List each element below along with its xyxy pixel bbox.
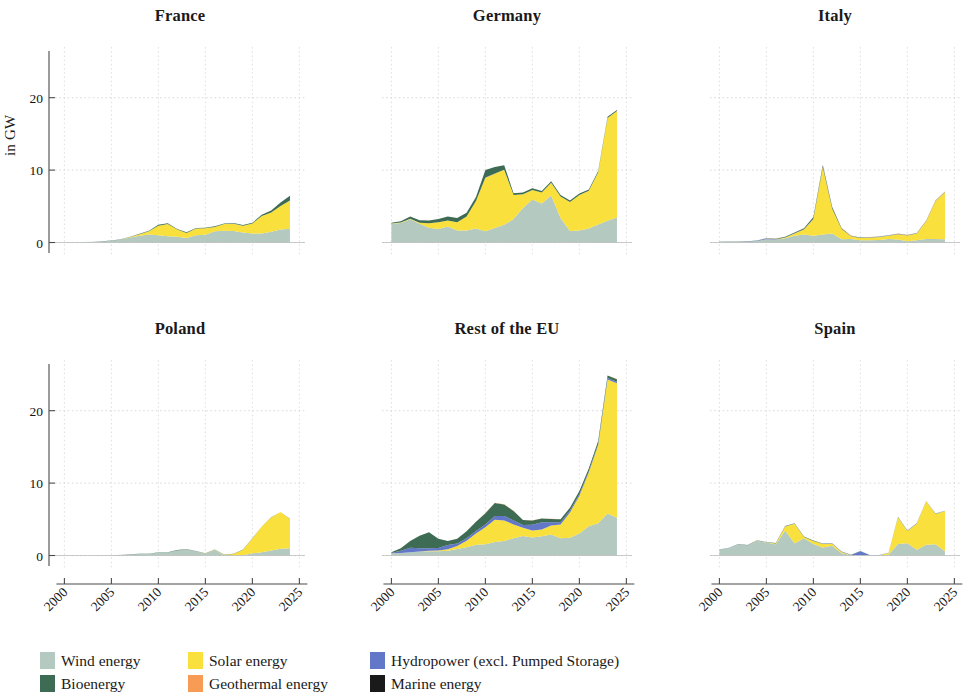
panel-rest-of-the-eu: Rest of the EU200020052010201520202025	[332, 313, 637, 623]
panel-plot: 200020052010201520202025	[332, 313, 640, 642]
stacked-areas	[64, 512, 290, 556]
y-tick-label: 10	[30, 163, 44, 178]
x-tick-label: 2000	[368, 584, 398, 614]
x-tick-label: 2010	[135, 584, 165, 614]
legend-item-marine-energy[interactable]: Marine energy	[370, 673, 482, 694]
x-tick-label: 2005	[88, 584, 118, 614]
panel-plot: 01020200020052010201520202025	[5, 313, 313, 642]
x-tick-label: 2020	[556, 584, 586, 614]
x-tick-label: 2015	[182, 584, 212, 614]
legend-item-solar-energy[interactable]: Solar energy	[188, 650, 287, 671]
stacked-areas	[391, 110, 617, 243]
panel-plot: 200020052010201520202025	[660, 313, 967, 642]
legend-swatch	[370, 675, 385, 692]
x-tick-label: 2005	[415, 584, 445, 614]
y-tick-label: 0	[36, 236, 43, 251]
area-solar-energy	[391, 111, 617, 231]
x-tick-label: 2010	[462, 584, 492, 614]
panel-grid: France01020GermanyItalyPoland01020200020…	[0, 0, 961, 632]
panel-plot: 01020	[5, 0, 313, 329]
legend-swatch	[188, 652, 203, 669]
x-tick-label: 2025	[931, 584, 961, 614]
legend-label: Marine energy	[391, 675, 482, 693]
area-solar-energy	[391, 380, 617, 554]
area-solar-energy	[719, 167, 945, 242]
panel-germany: Germany	[332, 0, 637, 310]
legend-swatch	[188, 675, 203, 692]
x-tick-label: 2020	[884, 584, 914, 614]
legend-label: Bioenergy	[61, 675, 125, 693]
panel-italy: Italy	[660, 0, 965, 310]
legend-item-bioenergy[interactable]: Bioenergy	[40, 673, 125, 694]
legend-label: Hydropower (excl. Pumped Storage)	[391, 652, 619, 670]
stacked-areas	[719, 165, 945, 243]
legend-label: Geothermal energy	[209, 675, 328, 693]
stacked-areas	[64, 196, 290, 243]
x-tick-label: 2020	[229, 584, 259, 614]
panel-poland: Poland01020200020052010201520202025	[5, 313, 310, 623]
y-tick-label: 0	[36, 549, 43, 564]
x-tick-label: 2010	[790, 584, 820, 614]
chart-legend: Wind energySolar energyHydropower (excl.…	[40, 650, 700, 696]
y-tick-label: 20	[30, 91, 44, 106]
area-solar-energy	[64, 512, 290, 555]
panel-spain: Spain200020052010201520202025	[660, 313, 965, 623]
legend-label: Wind energy	[61, 652, 141, 670]
legend-swatch	[370, 652, 385, 669]
legend-item-hydropower-excl-pumped-storage[interactable]: Hydropower (excl. Pumped Storage)	[370, 650, 619, 671]
x-tick-label: 2025	[276, 584, 306, 614]
legend-row-top: Wind energySolar energyHydropower (excl.…	[40, 650, 700, 671]
x-tick-label: 2000	[696, 584, 726, 614]
panel-france: France01020	[5, 0, 310, 310]
panel-plot	[332, 0, 640, 329]
legend-item-geothermal-energy[interactable]: Geothermal energy	[188, 673, 328, 694]
legend-label: Solar energy	[209, 652, 287, 670]
y-tick-label: 20	[30, 404, 44, 419]
stacked-areas	[719, 501, 945, 556]
legend-item-wind-energy[interactable]: Wind energy	[40, 650, 141, 671]
x-tick-label: 2000	[41, 584, 71, 614]
legend-row-bottom: BioenergyGeothermal energyMarine energy	[40, 673, 700, 694]
x-tick-label: 2015	[837, 584, 867, 614]
y-tick-label: 10	[30, 476, 44, 491]
legend-swatch	[40, 652, 55, 669]
legend-swatch	[40, 675, 55, 692]
x-tick-label: 2005	[743, 584, 773, 614]
panel-plot	[660, 0, 967, 329]
x-tick-label: 2015	[509, 584, 539, 614]
stacked-areas	[391, 375, 617, 555]
x-tick-label: 2025	[603, 584, 633, 614]
